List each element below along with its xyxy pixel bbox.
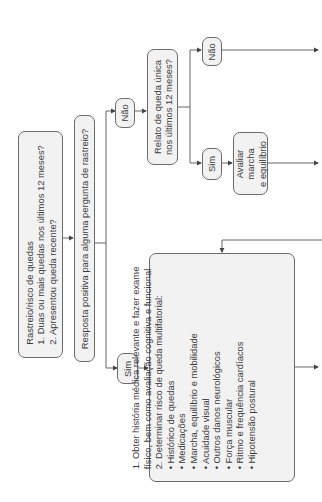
single-fall-line-2: nos últimos 12 meses? — [163, 59, 174, 155]
bullet-icon: • — [177, 463, 188, 469]
single-fall-question-text: Relato de queda única nos últimos 12 mes… — [151, 59, 174, 155]
yes-label-2: Sim — [206, 156, 217, 172]
risk-factor-item: • Acuidade visual — [200, 266, 212, 469]
risk-factor-label: Acuidade visual — [200, 398, 211, 464]
risk-factor-item: • Ritmo e frequência cardíacos — [235, 266, 247, 469]
risk-factor-label: Medicações — [177, 413, 188, 463]
bullet-icon: • — [246, 463, 257, 469]
risk-factor-item: • Força muscular — [223, 266, 235, 469]
risk-factor-list: • Histórico de quedas• Medicações• March… — [165, 266, 258, 469]
multifactorial-assessment-box: 1. Obter história médica relevante e faz… — [149, 253, 295, 482]
gait-line-3: e equilíbrio — [256, 141, 267, 187]
risk-factor-label: Ritmo e frequência cardíacos — [235, 341, 246, 463]
bullet-icon: • — [223, 463, 234, 469]
risk-factor-item: • Marcha, equilíbrio e mobilidade — [188, 266, 200, 469]
no-label-1: Não — [119, 104, 130, 121]
risk-factor-item: • Histórico de quedas — [165, 266, 177, 469]
arrow-return-into-assessment — [222, 240, 322, 252]
risk-factor-label: Marcha, equilíbrio e mobilidade — [188, 333, 199, 463]
no-box-2: Não — [202, 37, 222, 66]
gait-assessment-text: Avaliar marcha e equilíbrio — [233, 141, 267, 187]
risk-factor-item: • Outros danos neurológicos — [211, 266, 223, 469]
assessment-line-1: 1. Obter história médica relevante e faz… — [130, 266, 142, 469]
assessment-line-3: 2. Determinar risco de queda multifatori… — [153, 266, 165, 469]
gait-assessment-box: Avaliar marcha e equilíbrio — [233, 132, 268, 195]
screening-question-2: 2. Apresentou queda recente? — [46, 145, 57, 345]
assessment-text: 1. Obter história médica relevante e faz… — [130, 266, 314, 469]
risk-factor-label: Força muscular — [223, 398, 234, 463]
single-fall-line-1: Relato de queda única — [151, 59, 162, 155]
bullet-icon: • — [165, 463, 176, 469]
screening-title: Rastreio/risco de quedas — [23, 145, 34, 345]
risk-factor-label: Histórico de quedas — [165, 380, 176, 463]
bullet-icon: • — [235, 463, 246, 469]
gait-line-2: marcha — [245, 141, 256, 187]
single-fall-question-box: Relato de queda única nos últimos 12 mes… — [147, 49, 178, 165]
risk-factor-label: Outros danos neurológicos — [211, 351, 222, 463]
risk-factor-item: • Medicações — [177, 266, 189, 469]
positive-question-box: Resposta positiva para alguma pergunta d… — [74, 115, 95, 362]
screening-box: Rastreio/risco de quedas 1. Duas ou mais… — [18, 131, 63, 358]
yes-box-2: Sim — [202, 148, 222, 180]
no-box-1: Não — [115, 98, 135, 128]
screening-question-1: 1. Duas ou mais quedas nos últimos 12 me… — [35, 145, 46, 345]
bullet-icon: • — [188, 463, 199, 469]
bullet-icon: • — [211, 463, 222, 469]
no-label-2: Não — [206, 43, 217, 60]
screening-text: Rastreio/risco de quedas 1. Duas ou mais… — [23, 145, 57, 345]
risk-factor-item: • Hipotensão postural — [246, 266, 258, 469]
positive-question-text: Resposta positiva para alguma pergunta d… — [79, 128, 90, 348]
gait-line-1: Avaliar — [233, 141, 244, 187]
assessment-line-2: físico, bem como avaliação cognitiva e f… — [142, 266, 154, 469]
risk-factor-label: Hipotensão postural — [246, 380, 257, 463]
